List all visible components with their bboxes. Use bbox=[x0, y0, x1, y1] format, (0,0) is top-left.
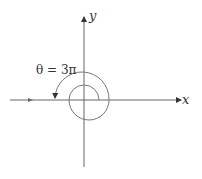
x-axis-label: x bbox=[182, 92, 190, 107]
y-axis-label: y bbox=[88, 8, 97, 23]
polar-diagram: x y θ = 3π bbox=[0, 0, 202, 179]
spiral-path bbox=[55, 72, 109, 120]
angle-label: θ = 3π bbox=[36, 63, 77, 77]
arrow-icon bbox=[28, 98, 33, 102]
